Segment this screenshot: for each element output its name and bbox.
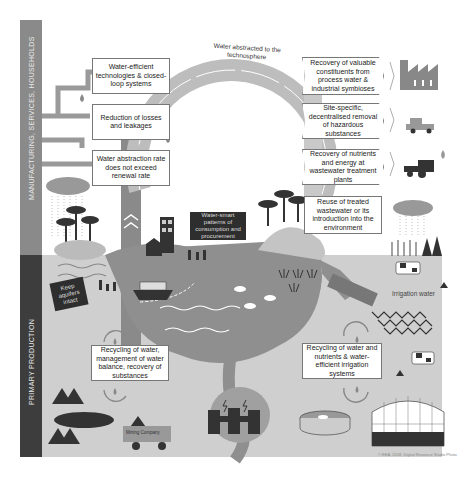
chevron-right-icon — [390, 62, 394, 176]
measure-box-water-efficient-tech: Water-efficient technologies & closed-lo… — [92, 58, 170, 94]
irrigation-outlet — [330, 280, 375, 300]
power-plant-icon — [208, 408, 260, 434]
water-drop-icon — [80, 94, 84, 102]
tractor-icon — [404, 150, 445, 178]
truck-icon — [406, 118, 434, 134]
quarry-pit — [54, 412, 114, 428]
factory-icon — [400, 60, 438, 90]
measure-box-recovery-constituents: Recovery of valuable constituents from p… — [302, 57, 384, 95]
cloud-rain-icon — [46, 177, 90, 236]
measure-box-recycling-water-balance: Recycling of water, management of water … — [91, 345, 169, 381]
measure-box-wastewater-reuse: Reuse of treated wastewater or its intro… — [304, 196, 382, 234]
diagram-graphics — [0, 0, 468, 481]
cow-icon — [396, 262, 434, 364]
mining-truck-label: Mining Company — [126, 430, 160, 435]
measure-box-hazardous-removal: Site-specific, decentralised removal of … — [302, 103, 384, 139]
measure-box-abstraction-rate: Water abstraction rate does not exceed r… — [92, 150, 170, 186]
hill — [54, 240, 106, 260]
measure-box-irrigation-recycling: Recycling of water and nutrients & water… — [302, 343, 382, 379]
tree-icon — [56, 206, 99, 246]
greenhouse-icon — [372, 396, 444, 446]
irrigation-water-label: Irrigation water — [392, 290, 435, 297]
house-icon — [146, 217, 174, 256]
measure-box-reduce-losses: Reduction of losses and leakages — [92, 104, 170, 140]
measure-box-nutrient-energy-recovery: Recovery of nutrients and energy at wast… — [302, 149, 384, 185]
sign-water-smart-consumption: Water-smart patterns of consumption and … — [190, 212, 246, 240]
tree-icon — [422, 236, 442, 256]
crop-icon — [392, 240, 416, 256]
water-tank-icon — [300, 411, 350, 435]
cloud-rain-icon — [393, 200, 433, 236]
crop-rows-icon — [372, 312, 432, 334]
copyright-note: © EEA, 2018, Digital Resource Studio Pho… — [378, 452, 457, 457]
tree-icon — [258, 190, 308, 226]
pipe-icon — [42, 72, 92, 164]
